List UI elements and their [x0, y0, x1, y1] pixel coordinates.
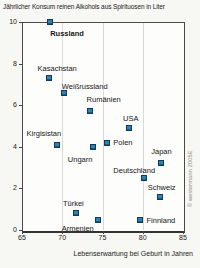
y-axis-tick-label: 4: [0, 143, 17, 150]
chart-title: Jährlicher Konsum reinen Alkohols aus Sp…: [3, 3, 199, 10]
x-axis-title: Lebenserwartung bei Geburt in Jahren: [74, 250, 193, 257]
y-axis-tick-label: 8: [0, 60, 17, 67]
chart-figure: Jährlicher Konsum reinen Alkohols aus Sp…: [0, 0, 200, 268]
x-axis-tick-label: 85: [173, 234, 193, 241]
x-axis-tick-label: 65: [12, 234, 32, 241]
y-axis-tick-label: 0: [0, 226, 17, 233]
x-axis-tick-label: 70: [52, 234, 72, 241]
y-axis-tick-label: 6: [0, 101, 17, 108]
y-axis-tick-label: 2: [0, 184, 17, 191]
x-axis-tick-label: 80: [133, 234, 153, 241]
plot-area: [22, 22, 185, 233]
y-axis-tick-label: 10: [0, 18, 17, 25]
x-axis-tick-label: 75: [93, 234, 113, 241]
copyright-text: © westermann 2005E: [187, 150, 193, 207]
